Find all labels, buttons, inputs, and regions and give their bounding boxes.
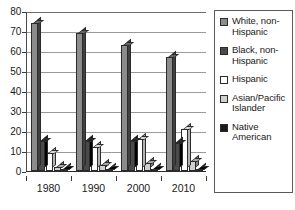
bar: [121, 45, 128, 171]
legend-swatch-icon: [220, 76, 228, 84]
legend-label: Black, non-Hispanic: [232, 45, 289, 66]
legend-label: White, non-Hispanic: [232, 16, 289, 37]
y-tick-label: 60: [0, 47, 21, 57]
x-tick-label: 2000: [116, 182, 161, 194]
x-tick-mark: [26, 176, 27, 181]
bar-chart: 01020304050607080 1980199020002010 White…: [0, 0, 295, 210]
y-tick-label: 50: [0, 67, 21, 77]
y-tick-label: 30: [0, 107, 21, 117]
x-tick-mark: [206, 176, 207, 181]
bar: [54, 167, 61, 171]
legend-item[interactable]: White, non-Hispanic: [220, 16, 289, 37]
bar-face: [166, 57, 173, 171]
x-tick-mark: [116, 176, 117, 181]
x-tick-mark: [161, 176, 162, 181]
bar-face: [54, 167, 61, 171]
bar-face: [196, 169, 203, 171]
legend-item[interactable]: Native American: [220, 122, 289, 143]
y-axis: 01020304050607080: [0, 12, 21, 172]
bar-face: [76, 33, 83, 171]
bar: [31, 23, 38, 171]
bar-group: [162, 12, 207, 171]
bar-face: [151, 169, 158, 171]
y-tick-label: 70: [0, 27, 21, 37]
legend-item[interactable]: Asian/Pacific Islander: [220, 93, 289, 114]
bar-face: [61, 169, 68, 171]
x-tick-mark: [71, 176, 72, 181]
legend-item[interactable]: Black, non-Hispanic: [220, 45, 289, 66]
bar: [76, 33, 83, 171]
plot-wrapper: 01020304050607080 1980199020002010: [0, 0, 212, 210]
y-tick-label: 10: [0, 147, 21, 157]
legend-swatch-icon: [220, 95, 228, 103]
y-tick-mark: [22, 172, 26, 173]
bar-face: [31, 23, 38, 171]
legend-swatch-icon: [220, 18, 228, 26]
legend-label: Native American: [232, 122, 289, 143]
bar-group: [72, 12, 117, 171]
y-tick-label: 40: [0, 87, 21, 97]
bar-face: [106, 169, 113, 171]
legend-label: Hispanic: [232, 74, 268, 85]
bar: [166, 57, 173, 171]
bar-face: [121, 45, 128, 171]
bar: [196, 169, 203, 171]
chart-legend: White, non-HispanicBlack, non-HispanicHi…: [214, 10, 293, 193]
x-tick-label: 1990: [71, 182, 116, 194]
x-tick-label: 1980: [26, 182, 71, 194]
bar-group: [117, 12, 162, 171]
legend-swatch-icon: [220, 47, 228, 55]
plot-area: [26, 12, 206, 172]
bar-group: [27, 12, 72, 171]
y-tick-label: 0: [0, 167, 21, 177]
bar: [61, 169, 68, 171]
bar: [106, 169, 113, 171]
legend-swatch-icon: [220, 124, 228, 132]
y-tick-label: 20: [0, 127, 21, 137]
legend-item[interactable]: Hispanic: [220, 74, 289, 85]
legend-label: Asian/Pacific Islander: [232, 93, 289, 114]
x-tick-label: 2010: [161, 182, 206, 194]
y-tick-label: 80: [0, 7, 21, 17]
x-axis: 1980199020002010: [26, 176, 206, 196]
bar: [151, 169, 158, 171]
